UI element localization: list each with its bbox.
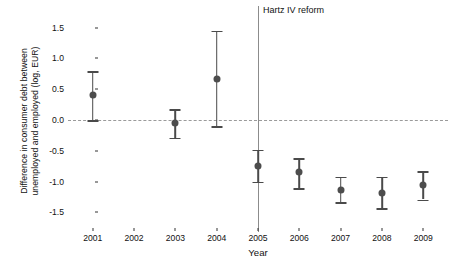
data-point	[420, 182, 427, 189]
error-bar-cap-upper	[335, 177, 346, 179]
y-axis-tick-label: -1.5	[30, 207, 64, 217]
data-point	[172, 120, 179, 127]
hartz-reform-vertical-line	[258, 6, 259, 232]
plot-area: Hartz IV reform	[68, 14, 448, 226]
y-axis-tick-label: 1.5	[30, 23, 64, 33]
x-axis-tick-label: 2009	[414, 233, 433, 243]
x-axis-tick-mark	[175, 228, 176, 231]
error-bar-cap-upper	[211, 31, 222, 33]
data-point	[296, 169, 303, 176]
error-bar-cap-upper	[376, 177, 387, 179]
error-bar-cap-lower	[294, 188, 305, 190]
error-bar-cap-lower	[376, 208, 387, 210]
error-bar-cap-upper	[294, 158, 305, 160]
data-point	[89, 91, 96, 98]
x-axis-tick-label: 2004	[207, 233, 226, 243]
x-axis-tick-mark	[299, 228, 300, 231]
x-axis-tick-label: 2008	[372, 233, 391, 243]
x-axis-tick-label: 2006	[290, 233, 309, 243]
y-axis-tick-label: -1.0	[30, 177, 64, 187]
error-bar-cap-upper	[170, 109, 181, 111]
x-axis-title: Year	[68, 247, 448, 258]
y-axis-title-line1: Difference in consumer debt between	[19, 46, 30, 195]
error-bar-cap-lower	[170, 138, 181, 140]
data-point	[337, 186, 344, 193]
error-bar-cap-upper	[87, 71, 98, 73]
x-axis-tick-mark	[216, 228, 217, 231]
error-bar-cap-lower	[87, 120, 98, 122]
x-axis-tick-label: 2001	[83, 233, 102, 243]
x-axis-tick-mark	[423, 228, 424, 231]
error-bar-cap-lower	[418, 200, 429, 202]
error-bar-cap-lower	[253, 182, 264, 184]
error-bar-cap-lower	[335, 202, 346, 204]
data-point	[213, 75, 220, 82]
x-axis-tick-mark	[340, 228, 341, 231]
x-axis-tick-mark	[258, 228, 259, 231]
x-axis-tick-mark	[134, 228, 135, 231]
data-point	[378, 189, 385, 196]
y-axis-tick-label: 1.0	[30, 53, 64, 63]
chart-container: Difference in consumer debt between unem…	[0, 0, 454, 272]
error-bar-cap-upper	[418, 171, 429, 173]
y-axis-tick-label: -0.5	[30, 146, 64, 156]
y-axis-tick-label: 0.5	[30, 84, 64, 94]
y-axis-tick-label: 0.0	[30, 115, 64, 125]
error-bar-cap-lower	[211, 126, 222, 128]
x-axis-tick-label: 2007	[331, 233, 350, 243]
y-axis-ticks: 1.51.00.50.0-0.5-1.0-1.5	[30, 0, 64, 272]
x-axis-tick-label: 2003	[166, 233, 185, 243]
x-axis-tick-label: 2002	[125, 233, 144, 243]
x-axis-tick-mark	[92, 228, 93, 231]
data-point	[255, 162, 262, 169]
x-axis-tick-label: 2005	[248, 233, 267, 243]
x-axis-tick-mark	[381, 228, 382, 231]
error-bar-cap-upper	[253, 150, 264, 152]
hartz-reform-annotation-label: Hartz IV reform	[263, 5, 324, 15]
